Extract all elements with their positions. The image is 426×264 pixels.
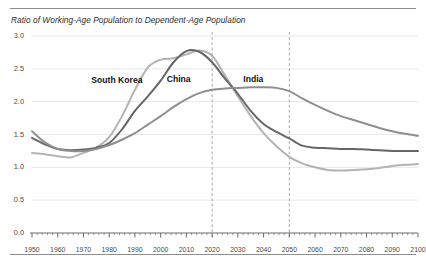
chart-page: Ratio of Working-Age Population to Depen… [0,0,426,264]
series-line-china [32,50,418,151]
top-divider-rule [10,8,416,9]
series-line-india [32,87,418,151]
line-chart-svg [0,28,426,243]
y-axis-tick-label: 0.0 [2,228,24,237]
chart-title: Ratio of Working-Age Population to Depen… [11,15,246,25]
plot-area [0,28,426,243]
y-axis-tick-label: 3.0 [2,31,24,40]
bottom-divider-rule [10,254,416,255]
gridlines [32,36,418,200]
y-axis-tick-label: 2.5 [2,64,24,73]
series-label-south-korea: South Korea [91,75,142,85]
series-label-china: China [167,74,191,84]
data-series-lines [32,50,418,171]
y-axis-tick-label: 2.0 [2,97,24,106]
series-label-india: India [243,74,263,84]
y-axis-tick-label: 1.5 [2,130,24,139]
y-axis-tick-label: 0.5 [2,195,24,204]
x-axis-ticks [32,233,418,238]
x-axis-tick-label: 2100 [403,246,426,253]
y-axis-tick-label: 1.0 [2,162,24,171]
